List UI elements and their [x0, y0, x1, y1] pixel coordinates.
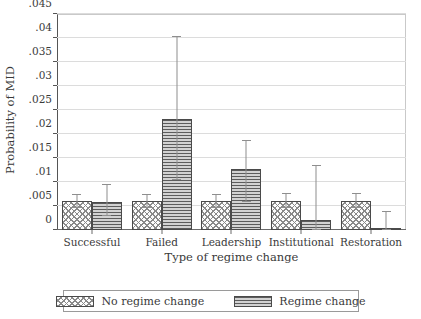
x-tick-mark	[301, 230, 302, 234]
y-tick-label: .025	[29, 93, 52, 105]
error-bar-cap-bottom	[382, 229, 391, 230]
error-bar-cap-bottom	[312, 229, 321, 230]
bar-wrapper	[62, 201, 92, 230]
bar-group: Failed	[127, 14, 197, 230]
y-tick-label: 0	[45, 213, 52, 225]
error-bar	[386, 211, 387, 230]
plot-area: 0.005.01.015.02.025.03.035.04.045 Succes…	[57, 14, 406, 230]
error-bar-cap-top	[282, 193, 291, 194]
error-bar-cap-bottom	[102, 215, 111, 216]
y-tick-label: .005	[29, 189, 52, 201]
legend-item-no-regime-change: No regime change	[56, 295, 204, 308]
y-tick-label: .045	[29, 0, 52, 9]
x-tick-label-failed: Failed	[145, 236, 177, 248]
y-tick-label: .04	[35, 21, 52, 33]
error-bar-cap-top	[212, 194, 221, 195]
error-bar-cap-top	[142, 194, 151, 195]
error-bar-cap-top	[352, 193, 361, 194]
bar-group: Leadership	[197, 14, 267, 230]
error-bar	[216, 194, 217, 208]
legend-label-regime-change: Regime change	[279, 295, 365, 308]
legend-swatch-regime-change	[234, 296, 272, 307]
y-tick-label: .01	[35, 165, 52, 177]
error-bar-cap-top	[72, 194, 81, 195]
error-bar-cap-top	[312, 165, 321, 166]
bar-wrapper	[341, 201, 371, 230]
x-tick-mark	[161, 230, 162, 234]
y-axis-title: Probability of MID	[0, 0, 21, 240]
x-tick-mark	[371, 230, 372, 234]
x-tick-mark	[231, 230, 232, 234]
bar-wrapper	[162, 119, 192, 230]
x-tick-mark	[91, 230, 92, 234]
x-tick-label-successful: Successful	[64, 236, 121, 248]
x-tick-label-institutional: Institutional	[269, 236, 334, 248]
bar-group: Successful	[57, 14, 127, 230]
y-tick-label: .02	[35, 117, 52, 129]
error-bar-cap-top	[242, 140, 251, 141]
bar-wrapper	[132, 201, 162, 230]
error-bar-cap-top	[102, 184, 111, 185]
legend-item-regime-change: Regime change	[234, 295, 365, 308]
chart-container: Probability of MID 0.005.01.015.02.025.0…	[0, 0, 421, 319]
bar-groups: SuccessfulFailedLeadershipInstitutionalR…	[57, 14, 406, 230]
error-bar	[76, 194, 77, 208]
error-bar-cap-top	[382, 211, 391, 212]
legend-label-no-regime-change: No regime change	[101, 295, 204, 308]
error-bar	[356, 193, 357, 209]
y-tick-label: .015	[29, 141, 52, 153]
error-bar-cap-bottom	[172, 179, 181, 180]
bar-wrapper	[201, 201, 231, 230]
bar-group: Restoration	[336, 14, 406, 230]
bar-wrapper	[301, 220, 331, 230]
error-bar	[176, 36, 177, 180]
error-bar	[286, 193, 287, 208]
error-bar-cap-top	[172, 36, 181, 37]
bar-wrapper	[371, 228, 401, 230]
error-bar-cap-bottom	[352, 207, 361, 208]
bar-wrapper	[271, 201, 301, 230]
error-bar-cap-bottom	[242, 201, 251, 202]
error-bar-cap-bottom	[282, 207, 291, 208]
y-tick-label: .035	[29, 45, 52, 57]
error-bar	[106, 184, 107, 215]
error-bar	[146, 194, 147, 208]
bar-wrapper	[92, 202, 122, 230]
error-bar-cap-bottom	[212, 207, 221, 208]
legend-swatch-no-regime-change	[56, 296, 94, 307]
error-bar	[246, 140, 247, 202]
x-axis-title: Type of regime change	[57, 250, 406, 264]
x-tick-label-restoration: Restoration	[340, 236, 402, 248]
y-tick-label: .03	[35, 69, 52, 81]
error-bar-cap-bottom	[142, 207, 151, 208]
chart-legend: No regime change Regime change	[63, 290, 359, 312]
error-bar	[316, 165, 317, 230]
bar-wrapper	[231, 169, 261, 230]
x-tick-label-leadership: Leadership	[202, 236, 262, 248]
error-bar-cap-bottom	[72, 207, 81, 208]
bar-group: Institutional	[266, 14, 336, 230]
